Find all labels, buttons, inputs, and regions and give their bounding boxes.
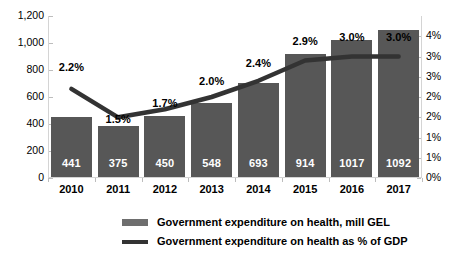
right-axis-tick-label: 4% (426, 30, 456, 41)
line-label-2017: 3.0% (386, 31, 411, 43)
right-axis-tick-label: 3% (426, 71, 456, 82)
right-axis-tick-label: 3% (426, 51, 456, 62)
left-axis-tick-label: 1,000 (0, 37, 44, 48)
legend-label-bar: Government expenditure on health, mill G… (157, 216, 390, 229)
bar-2016: 1017 (331, 40, 372, 177)
line-label-2010: 2.2% (59, 61, 84, 73)
category-label-2014: 2014 (246, 182, 270, 196)
left-axis-tick-label: 200 (0, 145, 44, 156)
right-axis-tick (417, 178, 421, 179)
legend-item-bar: Government expenditure on health, mill G… (0, 213, 464, 232)
health-expenditure-chart: 02004006008001,0001,200 0%1%1%2%2%3%3%4%… (0, 0, 464, 260)
bar-value-label: 914 (285, 157, 326, 169)
chart-legend: Government expenditure on health, mill G… (0, 213, 464, 251)
bar-value-label: 1092 (378, 157, 419, 169)
category-labels: 20102011201220132014201520162017 (48, 182, 422, 198)
left-axis-tick (49, 97, 53, 98)
bar-value-label: 441 (51, 157, 92, 169)
right-axis-tick-label: 1% (426, 152, 456, 163)
left-axis-tick (49, 178, 53, 179)
bar-2012: 450 (144, 116, 185, 177)
category-label-2011: 2011 (106, 182, 130, 196)
bar-swatch-icon (122, 219, 148, 226)
category-label-2012: 2012 (153, 182, 177, 196)
right-axis-line (421, 16, 422, 178)
category-label-2013: 2013 (199, 182, 223, 196)
left-axis-tick-label: 600 (0, 91, 44, 102)
bar-2010: 441 (51, 117, 92, 177)
bar-value-label: 450 (144, 157, 185, 169)
right-axis-tick-label: 2% (426, 91, 456, 102)
legend-label-line: Government expenditure on health as % of… (157, 235, 408, 248)
left-axis-tick (49, 43, 53, 44)
bar-2011: 375 (98, 126, 139, 177)
right-axis-tick-label: 2% (426, 111, 456, 122)
plot-area: 44137545054869391410171092 2.2%1.5%1.7%2… (48, 16, 422, 178)
bar-2013: 548 (191, 103, 232, 177)
line-label-2011: 1.5% (106, 113, 131, 125)
category-label-2015: 2015 (293, 182, 317, 196)
bar-value-label: 375 (98, 157, 139, 169)
category-label-2016: 2016 (340, 182, 364, 196)
left-axis-tick (49, 16, 53, 17)
left-axis-tick-label: 1,200 (0, 10, 44, 21)
category-label-2010: 2010 (59, 182, 83, 196)
line-swatch-icon (122, 240, 148, 244)
line-label-2013: 2.0% (199, 75, 224, 87)
left-axis-tick (49, 70, 53, 71)
left-value-axis: 02004006008001,0001,200 (0, 16, 44, 178)
bar-value-label: 1017 (331, 157, 372, 169)
bar-2015: 914 (285, 54, 326, 177)
right-axis-tick-label: 0% (426, 172, 456, 183)
bar-2014: 693 (238, 83, 279, 177)
line-label-2014: 2.4% (246, 57, 271, 69)
bar-2017: 1092 (378, 30, 419, 177)
left-axis-tick-label: 400 (0, 118, 44, 129)
line-label-2015: 2.9% (293, 35, 318, 47)
bar-value-label: 548 (191, 157, 232, 169)
right-percent-axis: 0%1%1%2%2%3%3%4% (426, 16, 464, 178)
legend-item-line: Government expenditure on health as % of… (0, 232, 464, 251)
category-label-2017: 2017 (386, 182, 410, 196)
line-label-2016: 3.0% (339, 31, 364, 43)
bar-value-label: 693 (238, 157, 279, 169)
left-axis-tick-label: 800 (0, 64, 44, 75)
left-axis-tick-label: 0 (0, 172, 44, 183)
right-axis-tick-label: 1% (426, 132, 456, 143)
category-tick (422, 178, 423, 182)
line-label-2012: 1.7% (152, 97, 177, 109)
